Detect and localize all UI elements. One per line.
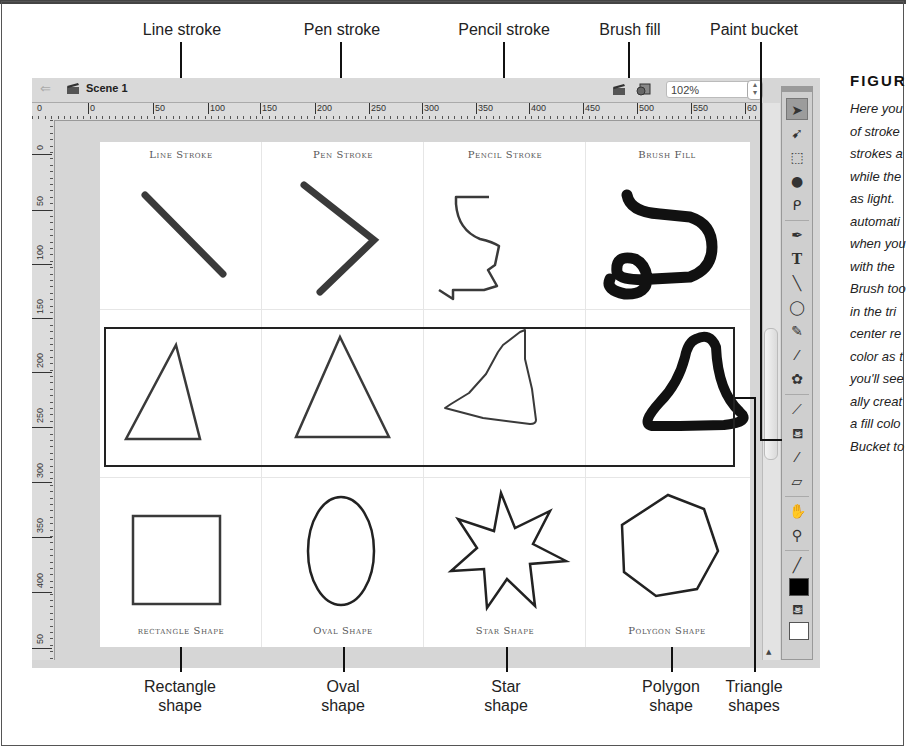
pencil-icon: ✎ — [791, 323, 803, 339]
bone-icon: ⟋ — [792, 401, 802, 417]
callout-star-shape: Starshape — [466, 677, 546, 715]
sphere-icon: ● — [791, 173, 803, 189]
selection-tool[interactable]: ➤ — [786, 98, 808, 120]
callout-paint-bucket-leader — [760, 42, 762, 440]
edit-bar: ⇐ Scene 1 102% — [32, 78, 762, 103]
hand-tool[interactable]: ✋ — [786, 500, 808, 522]
fill-color-swatch[interactable] — [789, 622, 809, 640]
subselect-arrow-icon: ➹ — [791, 125, 803, 141]
pencil-stroke-shape — [439, 197, 499, 299]
rectangle-shape — [133, 516, 220, 604]
back-arrow-icon[interactable]: ⇐ — [40, 81, 51, 96]
callout-triangle-leader-h — [735, 397, 755, 399]
subselection-tool[interactable]: ➹ — [786, 122, 808, 144]
stroke-color-tool[interactable]: ╱ — [786, 554, 808, 576]
line-icon: ╲ — [793, 275, 801, 291]
scroll-up-arrow-icon[interactable]: ▲ — [766, 648, 771, 656]
callout-pen-stroke: Pen stroke — [290, 20, 394, 39]
pencil-stroke-color-icon: ╱ — [793, 557, 801, 573]
stroke-color-swatch[interactable] — [789, 578, 809, 596]
bone-tool[interactable]: ⟋ — [786, 398, 808, 420]
callout-paint-bucket: Paint bucket — [698, 20, 810, 39]
tools-panel: ➤ ➹ ⬚ ● ᑭ ✒ T ╲ ◯ ✎ ⁄ ✿ ⟋ ⛾ ⁄ ▱ ✋ ⚲ ╱ ⛾ — [781, 86, 813, 660]
edit-symbols-icon[interactable] — [636, 82, 652, 96]
free-transform-icon: ⬚ — [790, 149, 803, 165]
pencil-tool[interactable]: ✎ — [786, 320, 808, 342]
callout-paint-bucket-leader-h — [760, 439, 782, 441]
callout-oval-leader — [343, 647, 345, 672]
edit-scene-icon[interactable] — [612, 82, 626, 96]
callout-oval-shape: Ovalshape — [303, 677, 383, 715]
paint-bucket-icon: ⛾ — [792, 425, 803, 441]
figure-caption: Here you of stroke strokes a while the a… — [850, 98, 911, 458]
vertical-ruler: 0 50 100 150 200 250 300 350 400 50 — [32, 120, 55, 660]
pen-nib-icon: ✒ — [791, 227, 803, 243]
free-transform-tool[interactable]: ⬚ — [786, 146, 808, 168]
magnifier-icon: ⚲ — [792, 527, 802, 543]
deco-flower-icon: ✿ — [791, 371, 803, 387]
callout-brush-fill: Brush fill — [588, 20, 672, 39]
deco-tool[interactable]: ✿ — [786, 368, 808, 390]
triangle-shapes-highlight — [104, 327, 735, 467]
bucket-fill-color-icon: ⛾ — [792, 601, 803, 617]
figure-title: FIGUR — [850, 72, 907, 89]
3d-rotation-tool[interactable]: ● — [786, 170, 808, 192]
brush-icon: ⁄ — [796, 347, 798, 363]
callout-line-stroke: Line stroke — [127, 20, 237, 39]
brush-fill-shape — [609, 195, 712, 294]
horizontal-ruler: 0 0 50 100 150 200 250 300 350 400 450 5… — [32, 103, 762, 121]
callout-triangle-leader — [754, 397, 756, 672]
oval-icon: ◯ — [789, 299, 805, 315]
line-stroke-shape — [145, 195, 223, 274]
pen-tool[interactable]: ✒ — [786, 224, 808, 246]
hand-icon: ✋ — [789, 503, 806, 519]
text-tool[interactable]: T — [786, 248, 808, 270]
line-tool[interactable]: ╲ — [786, 272, 808, 294]
brush-tool[interactable]: ⁄ — [786, 344, 808, 366]
eraser-icon: ▱ — [792, 473, 803, 489]
callout-star-leader — [506, 647, 508, 672]
eyedropper-tool[interactable]: ⁄ — [786, 446, 808, 468]
oval-tool[interactable]: ◯ — [786, 296, 808, 318]
callout-pencil-stroke: Pencil stroke — [448, 20, 560, 39]
callout-polygon-leader — [671, 647, 673, 672]
text-t-icon: T — [792, 251, 802, 267]
paint-bucket-tool[interactable]: ⛾ — [786, 422, 808, 444]
callout-polygon-shape: Polygonshape — [631, 677, 711, 715]
eyedropper-icon: ⁄ — [796, 449, 798, 465]
arrow-icon: ➤ — [791, 102, 803, 118]
pen-stroke-shape — [304, 185, 374, 292]
zoom-tool[interactable]: ⚲ — [786, 524, 808, 546]
callout-rectangle-leader — [180, 647, 182, 672]
callout-rectangle-shape: Rectangleshape — [130, 677, 230, 715]
eraser-tool[interactable]: ▱ — [786, 470, 808, 492]
callout-triangle-shapes: Triangleshapes — [714, 677, 794, 715]
zoom-level-field[interactable]: 102% — [666, 81, 752, 98]
oval-shape — [308, 497, 374, 605]
scene-label[interactable]: Scene 1 — [86, 82, 128, 94]
lasso-icon: ᑭ — [793, 197, 802, 213]
scene-clapper-icon — [66, 82, 80, 95]
fill-color-tool[interactable]: ⛾ — [786, 598, 808, 620]
lasso-tool[interactable]: ᑭ — [786, 194, 808, 216]
star-shape — [451, 493, 566, 608]
polygon-shape — [622, 495, 718, 596]
